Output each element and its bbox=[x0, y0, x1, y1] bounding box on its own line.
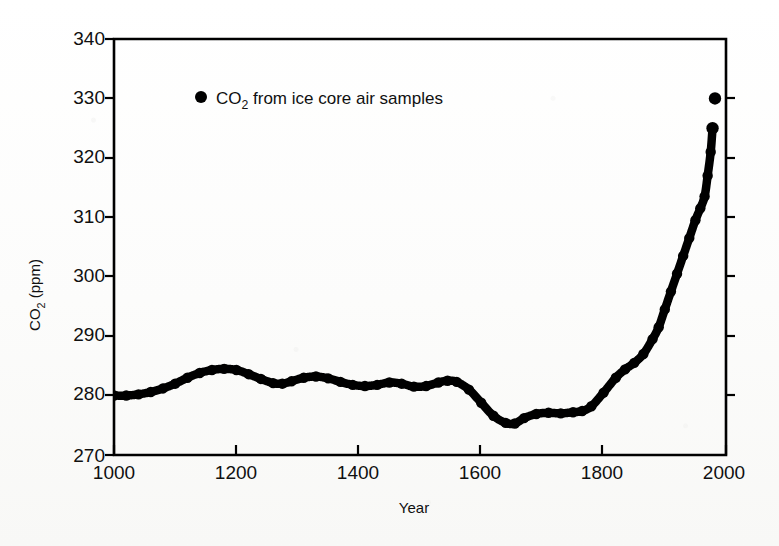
data-point bbox=[699, 191, 709, 201]
data-point-terminal bbox=[706, 122, 718, 134]
data-point bbox=[690, 215, 700, 225]
co2-data-points bbox=[109, 92, 721, 428]
data-point bbox=[672, 269, 682, 279]
data-point bbox=[396, 378, 406, 388]
data-point bbox=[231, 365, 241, 375]
data-point bbox=[476, 398, 486, 408]
data-point bbox=[323, 373, 333, 383]
data-point bbox=[133, 389, 143, 399]
y-axis-title: CO2 (ppm) bbox=[26, 259, 47, 331]
x-tick-label-1600: 1600 bbox=[459, 462, 501, 483]
data-point bbox=[620, 364, 630, 374]
y-tick-label-290: 290 bbox=[73, 324, 105, 345]
data-point bbox=[568, 407, 578, 417]
data-point bbox=[684, 233, 694, 243]
data-point bbox=[629, 358, 639, 368]
data-point bbox=[372, 380, 382, 390]
data-point bbox=[409, 381, 419, 391]
data-point bbox=[207, 365, 217, 375]
data-point bbox=[531, 409, 541, 419]
x-tick-label-2000: 2000 bbox=[703, 462, 745, 483]
svg-text:CO2 (ppm): CO2 (ppm) bbox=[26, 259, 47, 331]
data-point bbox=[647, 334, 657, 344]
data-point bbox=[286, 376, 296, 386]
data-point bbox=[158, 383, 168, 393]
data-point bbox=[360, 381, 370, 391]
data-point-terminal bbox=[709, 92, 721, 104]
data-point bbox=[510, 418, 520, 428]
y-tick-label-340: 340 bbox=[73, 28, 105, 49]
data-point bbox=[519, 413, 529, 423]
data-point bbox=[311, 371, 321, 381]
data-point bbox=[556, 408, 566, 418]
data-point bbox=[706, 147, 716, 157]
y-tick-label-320: 320 bbox=[73, 146, 105, 167]
y-tick-label-300: 300 bbox=[73, 265, 105, 286]
data-point bbox=[277, 378, 287, 388]
x-tick-label-1000: 1000 bbox=[93, 462, 135, 483]
data-point bbox=[268, 378, 278, 388]
legend-marker-filled-circle-icon bbox=[195, 91, 207, 103]
y-axis-tick-labels: 340 330 320 310 300 290 280 270 bbox=[73, 28, 105, 466]
data-point bbox=[653, 322, 663, 332]
data-point bbox=[442, 376, 452, 386]
data-point bbox=[488, 411, 498, 421]
y-axis-title-main: CO bbox=[26, 308, 43, 331]
data-point bbox=[452, 377, 462, 387]
legend: CO2 from ice core air samples bbox=[195, 89, 443, 112]
data-point bbox=[638, 349, 648, 359]
data-point bbox=[421, 381, 431, 391]
data-point bbox=[194, 368, 204, 378]
legend-label-main: CO bbox=[216, 89, 242, 108]
data-point bbox=[678, 251, 688, 261]
data-point bbox=[586, 401, 596, 411]
data-point bbox=[170, 378, 180, 388]
legend-label: CO2 from ice core air samples bbox=[216, 89, 443, 112]
y-axis-title-unit: (ppm) bbox=[26, 259, 43, 302]
x-axis-title: Year bbox=[399, 499, 429, 516]
data-point bbox=[256, 374, 266, 384]
data-point bbox=[660, 304, 670, 314]
data-point bbox=[219, 364, 229, 374]
data-point bbox=[611, 373, 621, 383]
data-point bbox=[299, 373, 309, 383]
data-point bbox=[121, 390, 131, 400]
data-point bbox=[146, 387, 156, 397]
data-point bbox=[335, 377, 345, 387]
data-point bbox=[347, 380, 357, 390]
data-point bbox=[182, 373, 192, 383]
data-point bbox=[695, 203, 705, 213]
co2-ice-core-chart: 340 330 320 310 300 290 280 270 1000 120… bbox=[0, 0, 779, 546]
data-point bbox=[702, 170, 712, 180]
legend-label-rest: from ice core air samples bbox=[248, 89, 443, 108]
data-point bbox=[433, 377, 443, 387]
data-point bbox=[384, 377, 394, 387]
data-point bbox=[598, 387, 608, 397]
co2-trace-line bbox=[114, 128, 713, 424]
data-point bbox=[666, 286, 676, 296]
y-tick-label-280: 280 bbox=[73, 383, 105, 404]
data-point bbox=[577, 406, 587, 416]
data-series-group bbox=[109, 92, 721, 428]
figure-page: 340 330 320 310 300 290 280 270 1000 120… bbox=[0, 0, 779, 546]
data-point bbox=[543, 408, 553, 418]
y-tick-label-330: 330 bbox=[73, 87, 105, 108]
x-tick-label-1400: 1400 bbox=[337, 462, 379, 483]
x-tick-label-1200: 1200 bbox=[215, 462, 257, 483]
y-tick-label-310: 310 bbox=[73, 206, 105, 227]
x-axis-tick-labels: 1000 1200 1400 1600 1800 2000 bbox=[93, 462, 745, 483]
data-point bbox=[243, 369, 253, 379]
data-point bbox=[500, 418, 510, 428]
data-point bbox=[464, 384, 474, 394]
x-tick-label-1800: 1800 bbox=[581, 462, 623, 483]
